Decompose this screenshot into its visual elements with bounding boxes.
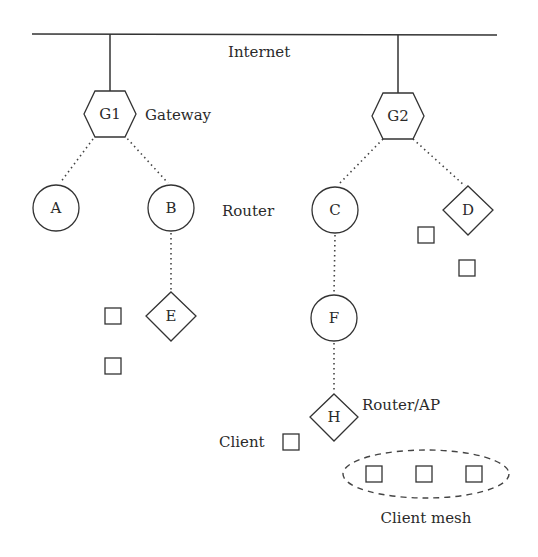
node-d: D bbox=[443, 186, 493, 235]
node-h: H bbox=[310, 394, 358, 441]
client-square-icon bbox=[283, 434, 299, 450]
node-f-label: F bbox=[329, 309, 339, 327]
internet-label: Internet bbox=[228, 43, 290, 61]
node-f: F bbox=[311, 295, 357, 341]
router-ap-label: Router/AP bbox=[362, 396, 440, 414]
node-g1-label: G1 bbox=[99, 105, 121, 123]
link-g2-c bbox=[338, 139, 383, 185]
node-c: C bbox=[312, 187, 358, 233]
node-g2: G2 bbox=[372, 93, 424, 139]
node-e: E bbox=[146, 292, 196, 341]
link-g1-b bbox=[124, 135, 168, 183]
node-b: B bbox=[148, 185, 194, 231]
node-e-label: E bbox=[166, 307, 177, 325]
node-a: A bbox=[33, 185, 79, 231]
client-square-icon bbox=[459, 260, 475, 276]
node-h-label: H bbox=[327, 408, 340, 426]
client-square-icon bbox=[105, 308, 121, 324]
router-label: Router bbox=[222, 202, 275, 220]
node-b-label: B bbox=[165, 199, 176, 217]
gateway-label: Gateway bbox=[145, 106, 212, 124]
client-square-icon bbox=[418, 227, 434, 243]
node-a-label: A bbox=[50, 199, 62, 217]
network-diagram: Internet G1 Gateway G2 A B Router C F D bbox=[0, 0, 538, 557]
node-g2-label: G2 bbox=[387, 107, 409, 125]
client-mesh-label: Client mesh bbox=[381, 509, 472, 527]
link-g2-d bbox=[413, 139, 465, 186]
client-square-icon bbox=[466, 466, 482, 482]
client-square-icon bbox=[105, 358, 121, 374]
client-label: Client bbox=[219, 433, 265, 451]
client-square-icon bbox=[416, 466, 432, 482]
internet-backbone-line bbox=[32, 34, 497, 35]
node-c-label: C bbox=[329, 201, 340, 219]
node-g1: G1 bbox=[84, 91, 136, 137]
link-g1-a bbox=[60, 135, 96, 183]
link-c-f bbox=[334, 235, 335, 294]
client-square-icon bbox=[366, 466, 382, 482]
node-d-label: D bbox=[462, 201, 474, 219]
